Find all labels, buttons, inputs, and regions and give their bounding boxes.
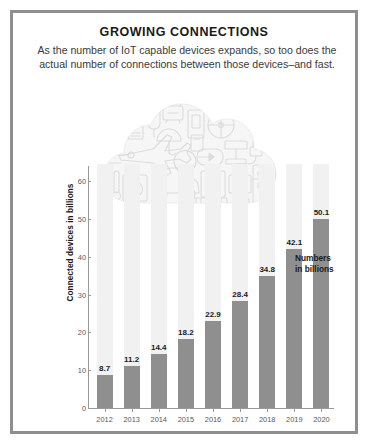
y-tick-mark (88, 219, 91, 220)
bar-column[interactable]: 50.1 (313, 88, 329, 408)
bar-value-label: 42.1 (279, 238, 309, 247)
bar-value-label: 14.4 (144, 343, 174, 352)
x-tick-label: 2014 (144, 415, 174, 424)
infographic-frame: GROWING CONNECTIONS As the number of IoT… (10, 10, 358, 434)
bar[interactable] (259, 276, 275, 408)
y-axis-label: Connected devices in billions (66, 128, 75, 358)
bar-chart: 0102030405060 Connected devices in billi… (59, 88, 345, 428)
bar-column[interactable]: 34.8 (259, 88, 275, 408)
x-tick-label: 2017 (225, 415, 255, 424)
x-tick-mark (132, 409, 133, 412)
bar[interactable] (124, 366, 140, 408)
x-tick-label: 2016 (198, 415, 228, 424)
y-tick-mark (88, 332, 91, 333)
bar-column[interactable]: 22.9 (205, 88, 221, 408)
bar-columns: 8.711.214.418.222.928.434.842.150.1 (91, 88, 335, 408)
bar-value-label: 50.1 (306, 208, 336, 217)
bar-value-label: 34.8 (252, 265, 282, 274)
bar[interactable] (151, 354, 167, 408)
y-tick-mark (88, 370, 91, 371)
bar-column[interactable]: 11.2 (124, 88, 140, 408)
units-annotation-line1: Numbers (295, 253, 357, 264)
x-tick-label: 2019 (279, 415, 309, 424)
bar-value-label: 28.4 (225, 290, 255, 299)
bar-column[interactable]: 8.7 (97, 88, 113, 408)
y-tick-label: 0 (64, 404, 86, 413)
y-tick-mark (88, 257, 91, 258)
bar[interactable] (313, 219, 329, 408)
x-tick-mark (186, 409, 187, 412)
page-title: GROWING CONNECTIONS (13, 25, 355, 39)
units-annotation-line2: in billions (295, 264, 357, 275)
x-tick-label: 2020 (306, 415, 336, 424)
bar-column[interactable]: 28.4 (232, 88, 248, 408)
x-tick-mark (240, 409, 241, 412)
bar[interactable] (97, 375, 113, 408)
bar-value-label: 11.2 (117, 355, 147, 364)
x-tick-mark (159, 409, 160, 412)
x-tick-mark (105, 409, 106, 412)
bar-value-label: 22.9 (198, 310, 228, 319)
x-tick-label: 2012 (90, 415, 120, 424)
bar-column[interactable]: 42.1 (286, 88, 302, 408)
y-tick-mark (88, 295, 91, 296)
x-tick-label: 2015 (171, 415, 201, 424)
bar-value-label: 18.2 (171, 328, 201, 337)
y-tick-mark (88, 181, 91, 182)
y-tick-label: 10 (64, 366, 86, 375)
bar[interactable] (178, 339, 194, 408)
page-subtitle: As the number of IoT capable devices exp… (29, 43, 345, 71)
x-tick-label: 2018 (252, 415, 282, 424)
bar-value-label: 8.7 (90, 364, 120, 373)
bar[interactable] (232, 301, 248, 408)
x-tick-mark (321, 409, 322, 412)
x-tick-mark (267, 409, 268, 412)
x-tick-mark (294, 409, 295, 412)
x-tick-mark (213, 409, 214, 412)
bar-column[interactable]: 14.4 (151, 88, 167, 408)
x-axis-ticks: 201220132014201520162017201820192020 (91, 409, 335, 429)
bar-column[interactable]: 18.2 (178, 88, 194, 408)
units-annotation: Numbers in billions (295, 253, 357, 275)
bar[interactable] (205, 321, 221, 408)
y-tick-mark (88, 408, 91, 409)
x-tick-label: 2013 (117, 415, 147, 424)
